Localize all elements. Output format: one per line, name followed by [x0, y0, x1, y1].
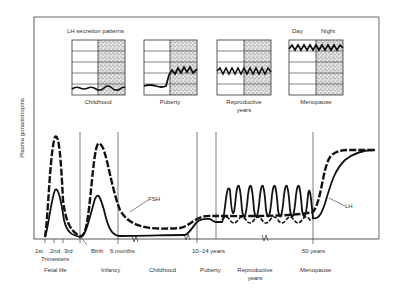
inset-label-childhood: Childhood	[84, 99, 111, 105]
inset-day-label: Day	[292, 28, 303, 34]
tick-10-14-years: 10–14 years	[192, 248, 225, 254]
tick-6-months: 6 months	[110, 248, 135, 254]
phase-childhood: Childhood	[149, 267, 176, 273]
fsh-reproductive-oscillation	[222, 217, 313, 223]
inset-menopause: Menopause	[289, 40, 343, 105]
inset-title: LH secretion patterns	[67, 28, 124, 34]
tick-50-years: 50 years	[302, 248, 325, 254]
inset-childhood: Childhood	[72, 40, 125, 105]
phase-infancy: Infancy	[101, 267, 120, 273]
tick-birth: Birth	[91, 248, 103, 254]
x-axis-ticks	[45, 239, 197, 243]
lh-label: LH	[345, 203, 353, 209]
tick-3rd: 3rd	[64, 248, 73, 254]
phase-reproductive: Reproductive	[237, 267, 273, 273]
axis-break-mark	[132, 236, 138, 242]
inset-night-label: Night	[321, 28, 335, 34]
lh-leader-line	[329, 198, 345, 206]
phase-menopause: Menopause	[300, 267, 332, 273]
birth-leader-line	[80, 236, 87, 245]
tick-2nd: 2nd	[50, 248, 60, 254]
tick-trimesters: Trimesters	[41, 256, 69, 262]
inset-label-reproductive-years: years	[237, 107, 252, 113]
inset-puberty: Puberty	[144, 40, 197, 105]
y-axis-label: Plasma gonadotropins	[19, 98, 25, 158]
phase-fetal-life: Fetal life	[44, 267, 67, 273]
fsh-curve	[45, 136, 375, 237]
period-dividers	[80, 132, 313, 244]
gonadotropin-lifespan-diagram: Plasma gonadotropins LH secretion patter…	[0, 0, 398, 295]
phase-puberty: Puberty	[200, 267, 221, 273]
fsh-leader-line	[130, 200, 148, 212]
inset-reproductive: Reproductive years	[217, 40, 271, 113]
phase-reproductive-years: years	[248, 275, 263, 281]
inset-label-puberty: Puberty	[160, 99, 181, 105]
inset-label-menopause: Menopause	[300, 99, 332, 105]
axis-break-mark	[262, 235, 268, 241]
tick-1st: 1st	[35, 248, 43, 254]
fsh-label: FSH	[148, 196, 160, 202]
inset-label-reproductive: Reproductive	[226, 99, 262, 105]
